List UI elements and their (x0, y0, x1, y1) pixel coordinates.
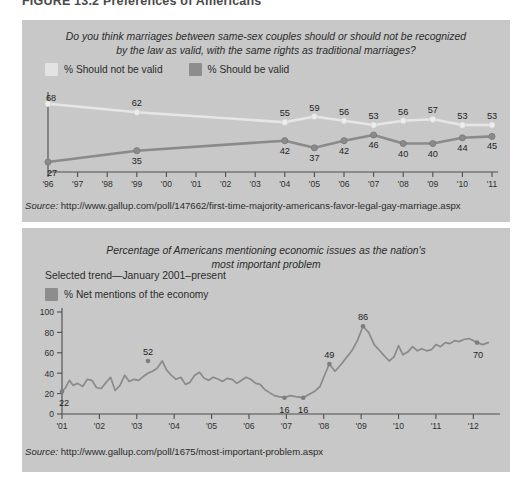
svg-text:70: 70 (473, 350, 483, 360)
legend-swatch-icon-light (45, 63, 58, 76)
svg-text:44: 44 (457, 143, 467, 153)
legend-item-should-be-valid: % Should be valid (189, 63, 290, 76)
svg-text:'12: '12 (468, 421, 479, 431)
svg-text:'03: '03 (131, 421, 142, 431)
svg-text:'04: '04 (279, 179, 290, 189)
same-sex-marriage-line-chart: '96'97'98'99'00'01'02'03'04'05'06'07'08'… (22, 84, 510, 199)
svg-text:20: 20 (44, 389, 54, 399)
svg-text:'11: '11 (487, 179, 498, 189)
chart-bottom-source: Source: http://www.gallup.com/poll/1675/… (25, 446, 323, 457)
svg-text:'02: '02 (220, 179, 231, 189)
svg-text:'96: '96 (42, 179, 53, 189)
svg-text:16: 16 (279, 405, 289, 415)
svg-text:42: 42 (339, 146, 349, 156)
chart-top-source-label: Source: (25, 200, 58, 211)
svg-text:'10: '10 (457, 179, 468, 189)
legend-swatch-icon-economy (45, 288, 58, 301)
svg-text:'11: '11 (431, 421, 442, 431)
svg-text:40: 40 (44, 369, 54, 379)
chart-top-question: Do you think marriages between same-sex … (56, 20, 476, 57)
svg-text:'05: '05 (206, 421, 217, 431)
chart-bottom-source-label: Source: (25, 446, 58, 457)
svg-text:'07: '07 (368, 179, 379, 189)
chart-bottom-title-line2: most important problem (211, 259, 320, 270)
svg-text:60: 60 (44, 348, 54, 358)
svg-text:'10: '10 (393, 421, 404, 431)
svg-text:'01: '01 (190, 179, 201, 189)
legend-item-should-not-be-valid: % Should not be valid (45, 63, 163, 76)
legend-label-should-not-be-valid: % Should not be valid (64, 64, 163, 75)
svg-text:35: 35 (132, 156, 142, 166)
svg-text:'08: '08 (318, 421, 329, 431)
svg-text:0: 0 (49, 409, 54, 419)
svg-text:'09: '09 (356, 421, 367, 431)
svg-text:22: 22 (59, 398, 69, 408)
svg-text:56: 56 (398, 107, 408, 117)
svg-text:'03: '03 (250, 179, 261, 189)
svg-text:55: 55 (280, 108, 290, 118)
legend-item-net-mentions-economy: % Net mentions of the economy (45, 288, 208, 301)
svg-text:56: 56 (339, 107, 349, 117)
svg-text:62: 62 (132, 98, 142, 108)
svg-text:57: 57 (428, 105, 438, 115)
svg-text:37: 37 (309, 153, 319, 163)
svg-text:40: 40 (428, 149, 438, 159)
svg-text:'07: '07 (281, 421, 292, 431)
chart-top-legend: % Should not be valid % Should be valid (45, 63, 289, 76)
chart-bottom-title-line1: Percentage of Americans mentioning econo… (106, 245, 425, 256)
economy-trend-line-chart: 020406080100'01'02'03'04'05'06'07'08'09'… (22, 302, 510, 442)
svg-text:40: 40 (398, 149, 408, 159)
svg-text:'08: '08 (398, 179, 409, 189)
svg-text:'01: '01 (56, 421, 67, 431)
svg-text:'09: '09 (427, 179, 438, 189)
chart-top-source: Source: http://www.gallup.com/poll/14766… (25, 200, 461, 211)
chart-top-question-line2: by the law as valid, with the same right… (116, 45, 416, 56)
svg-text:42: 42 (280, 146, 290, 156)
svg-text:'06: '06 (338, 179, 349, 189)
chart-bottom-subtitle: Selected trend—January 2001–present (45, 270, 226, 281)
svg-text:53: 53 (368, 111, 378, 121)
svg-text:100: 100 (40, 307, 55, 317)
svg-text:86: 86 (358, 312, 368, 322)
svg-text:'00: '00 (161, 179, 172, 189)
svg-text:'02: '02 (94, 421, 105, 431)
svg-text:80: 80 (44, 328, 54, 338)
chart-bottom-legend: % Net mentions of the economy (45, 288, 208, 301)
legend-swatch-icon-dark (189, 63, 202, 76)
svg-text:53: 53 (457, 111, 467, 121)
svg-text:'97: '97 (72, 179, 83, 189)
svg-text:'04: '04 (169, 421, 180, 431)
svg-text:27: 27 (47, 168, 57, 178)
svg-text:45: 45 (487, 141, 497, 151)
svg-text:49: 49 (324, 350, 334, 360)
chart-top-source-url: http://www.gallup.com/poll/147662/first-… (61, 200, 461, 211)
svg-text:'99: '99 (131, 179, 142, 189)
chart-top-question-line1: Do you think marriages between same-sex … (66, 31, 466, 42)
svg-text:46: 46 (368, 140, 378, 150)
legend-label-net-mentions-economy: % Net mentions of the economy (64, 289, 208, 300)
svg-text:16: 16 (298, 405, 308, 415)
svg-text:68: 68 (46, 93, 56, 103)
figure-title: FIGURE 13.2 Preferences of Americans (22, 0, 261, 6)
svg-text:'98: '98 (102, 179, 113, 189)
svg-text:59: 59 (309, 103, 319, 113)
legend-label-should-be-valid: % Should be valid (208, 64, 290, 75)
chart-bottom-source-url: http://www.gallup.com/poll/1675/most-imp… (61, 446, 323, 457)
chart-bottom-title: Percentage of Americans mentioning econo… (66, 228, 466, 271)
svg-text:'06: '06 (243, 421, 254, 431)
svg-text:52: 52 (143, 347, 153, 357)
svg-text:53: 53 (487, 111, 497, 121)
svg-text:'05: '05 (309, 179, 320, 189)
